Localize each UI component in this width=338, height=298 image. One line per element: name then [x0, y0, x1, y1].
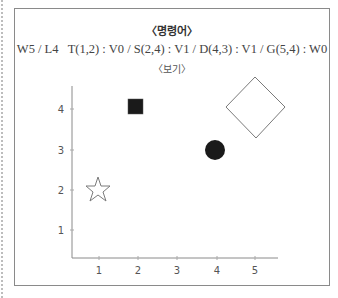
x-ticks: 1 2 3 4 5	[96, 256, 258, 276]
x-tick-label: 1	[96, 265, 102, 276]
x-tick-label: 4	[214, 265, 220, 276]
y-tick-label: 4	[58, 104, 64, 115]
scatter-plot: 1 2 3 4 1 2 3 4 5	[0, 0, 338, 298]
y-tick-label: 3	[58, 145, 64, 156]
square-icon	[128, 99, 143, 114]
y-tick-label: 2	[58, 185, 64, 196]
star-icon	[86, 177, 110, 201]
x-tick-label: 2	[135, 265, 141, 276]
diamond-icon	[226, 77, 285, 138]
x-tick-label: 3	[174, 265, 180, 276]
y-tick-label: 1	[58, 225, 64, 236]
circle-icon	[205, 140, 225, 160]
x-tick-label: 5	[252, 265, 258, 276]
